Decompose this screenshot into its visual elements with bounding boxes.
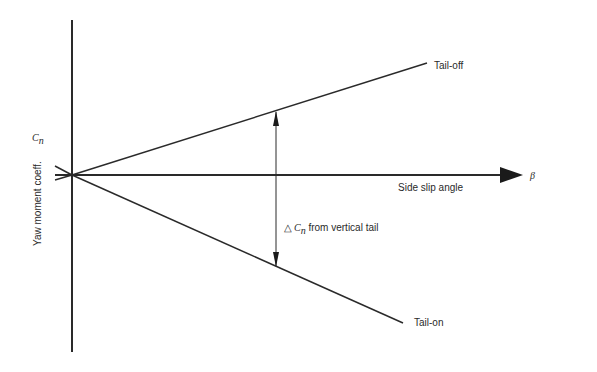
tail-on-label: Tail-on	[414, 317, 443, 328]
x-axis-symbol: β	[529, 170, 535, 181]
tail-on-line	[72, 175, 403, 323]
x-axis-arrowhead-icon	[500, 167, 523, 183]
x-axis-label: Side slip angle	[398, 182, 463, 193]
tail-off-label: Tail-off	[434, 60, 463, 71]
delta-cn-annotation: △Cn from vertical tail	[284, 222, 378, 236]
tail-off-line	[72, 63, 427, 175]
delta-cn-arrowhead-up-icon	[273, 111, 279, 126]
yaw-moment-diagram: Tail-off Tail-on Side slip angle β Cn Ya…	[0, 0, 597, 372]
y-axis-label: Yaw moment coeff.	[32, 161, 43, 246]
y-axis-symbol: Cn	[32, 132, 44, 146]
tail-on-extension	[55, 166, 72, 175]
